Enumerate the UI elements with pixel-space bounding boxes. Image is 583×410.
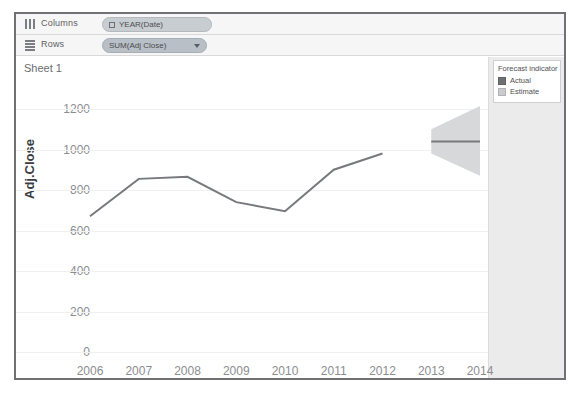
- pill-sum-adj-close-label: SUM(Adj Close): [109, 41, 191, 50]
- worksheet-area: Sheet 1 Forecast indicator Actual Estima…: [16, 57, 564, 378]
- pill-year-date[interactable]: YEAR(Date): [102, 17, 212, 32]
- x-tick-2013: 2013: [418, 364, 445, 378]
- legend-item-actual[interactable]: Actual: [498, 76, 556, 85]
- x-tick-2007: 2007: [125, 364, 152, 378]
- legend-swatch-actual: [498, 77, 506, 85]
- legend-panel: Forecast indicator Actual Estimate: [488, 57, 564, 378]
- rows-icon: [25, 40, 35, 50]
- tableau-worksheet-window: Columns YEAR(Date) Rows SUM(Adj Close) S…: [14, 12, 566, 380]
- x-tick-2006: 2006: [77, 364, 104, 378]
- columns-shelf[interactable]: Columns YEAR(Date): [16, 14, 564, 35]
- rows-shelf[interactable]: Rows SUM(Adj Close): [16, 35, 564, 56]
- x-tick-2008: 2008: [174, 364, 201, 378]
- legend-title: Forecast indicator: [498, 64, 556, 73]
- x-tick-2009: 2009: [223, 364, 250, 378]
- x-tick-2014: 2014: [467, 364, 494, 378]
- columns-icon: [25, 19, 35, 29]
- legend-item-estimate[interactable]: Estimate: [498, 87, 556, 96]
- x-tick-2012: 2012: [369, 364, 396, 378]
- rows-shelf-label: Rows: [41, 39, 64, 49]
- screen: Columns YEAR(Date) Rows SUM(Adj Close) S…: [0, 0, 583, 410]
- legend-label-actual: Actual: [510, 76, 531, 85]
- line-chart-canvas: [16, 57, 492, 380]
- columns-shelf-label: Columns: [41, 18, 78, 28]
- chevron-down-icon[interactable]: [194, 44, 200, 48]
- forecast-indicator-legend: Forecast indicator Actual Estimate: [493, 60, 561, 103]
- calendar-glyph-icon: [109, 22, 115, 28]
- series-line-actual: [90, 154, 383, 217]
- legend-label-estimate: Estimate: [510, 87, 539, 96]
- pill-year-date-label: YEAR(Date): [119, 20, 205, 29]
- legend-swatch-estimate: [498, 88, 506, 96]
- pill-sum-adj-close[interactable]: SUM(Adj Close): [102, 38, 207, 53]
- x-tick-2010: 2010: [272, 364, 299, 378]
- plot-area: Adj.Close 020040060080010001200 20062007…: [16, 57, 488, 378]
- x-tick-2011: 2011: [321, 364, 347, 378]
